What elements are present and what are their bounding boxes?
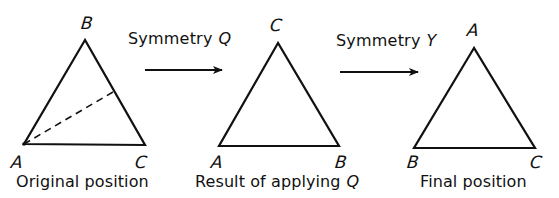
transition-label-text: Symmetry [336, 31, 421, 50]
transition-label-text: Symmetry [128, 29, 213, 48]
vertex-label-top-final: A [466, 22, 479, 39]
transition-label-y: SymmetryY [336, 33, 437, 49]
vertex-label-bottom-left-final: B [406, 154, 419, 171]
vertex-label-top-after-q: C [269, 17, 283, 34]
caption-symbol-q: Q [347, 172, 360, 191]
vertex-label-bottom-right-final: C [529, 154, 543, 171]
caption-text: Original position [16, 172, 149, 191]
triangle-after-q [219, 43, 339, 146]
vertex-label-bottom-right-after-q: B [334, 154, 347, 171]
vertex-label-bottom-right-original: C [134, 154, 148, 171]
triangle-final [414, 48, 535, 148]
caption-after-q: Result of applyingQ [195, 174, 359, 190]
transition-symbol-q: Q [219, 29, 232, 48]
vertex-label-top-original: B [80, 15, 93, 32]
transition-symbol-y: Y [427, 31, 437, 50]
vertex-label-bottom-left-original: A [10, 154, 23, 171]
transition-label-q: SymmetryQ [128, 31, 231, 47]
triangle-original [22, 40, 145, 146]
vertex-label-bottom-left-after-q: A [210, 154, 223, 171]
caption-final: Final position [420, 174, 527, 190]
caption-text: Final position [420, 172, 527, 191]
reflection-axis-dashed [24, 92, 113, 144]
caption-original: Original position [16, 174, 149, 190]
caption-text: Result of applying [195, 172, 341, 191]
